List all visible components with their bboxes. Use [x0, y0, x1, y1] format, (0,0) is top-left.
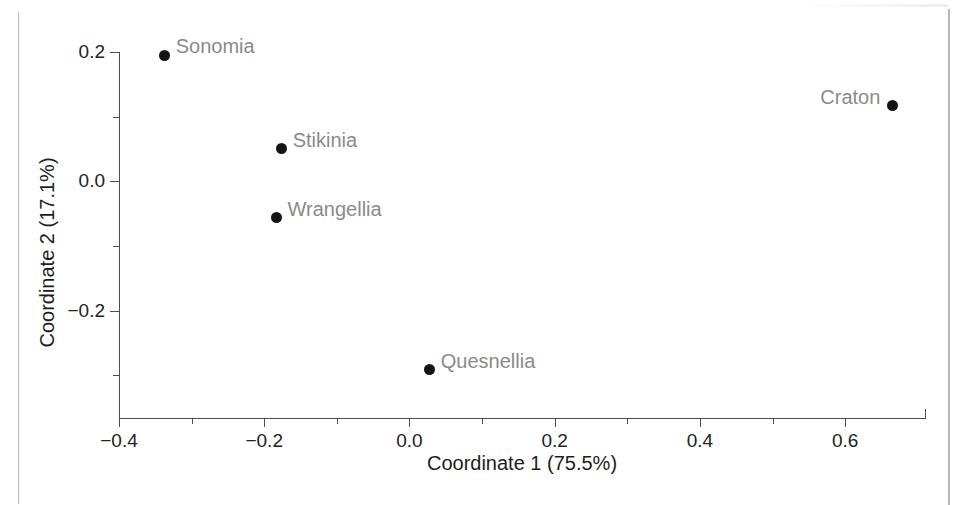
data-point-label: Sonomia [176, 35, 255, 58]
data-point-marker [276, 143, 287, 154]
x-tick-mark [845, 418, 846, 427]
data-point-label: Craton [820, 85, 880, 108]
x-tick-mark [337, 418, 338, 424]
y-tick-label: 0.2 [79, 41, 105, 63]
page-edge-rule-right [948, 9, 950, 505]
data-point-label: Stikinia [293, 128, 357, 151]
data-point-label: Quesnellia [441, 349, 536, 372]
page-edge-rule-left [18, 12, 19, 504]
y-tick-mark [110, 311, 119, 312]
x-tick-label: 0.2 [541, 430, 567, 452]
plot-area: 0.20.0−0.2 −0.4−0.20.00.20.40.6 SonomiaS… [119, 52, 925, 418]
y-axis-spine [119, 52, 120, 419]
x-tick-label: 0.6 [832, 430, 858, 452]
x-tick-label: −0.2 [245, 430, 283, 452]
x-tick-mark [700, 418, 701, 427]
y-tick-mark [110, 52, 119, 53]
data-point-marker [159, 50, 170, 61]
x-tick-mark [555, 418, 556, 427]
y-tick-label: −0.2 [67, 300, 105, 322]
x-tick-mark [627, 418, 628, 424]
data-point-marker [887, 100, 898, 111]
y-tick-label: 0.0 [79, 170, 105, 192]
x-tick-label: 0.4 [687, 430, 713, 452]
x-tick-mark [264, 418, 265, 427]
scatter-plot-figure: 0.20.0−0.2 −0.4−0.20.00.20.40.6 SonomiaS… [0, 0, 965, 505]
data-point-marker [424, 364, 435, 375]
x-tick-mark [773, 418, 774, 424]
y-axis-title: Coordinate 2 (17.1%) [30, 0, 64, 505]
x-axis-title: Coordinate 1 (75.5%) [119, 452, 925, 475]
x-tick-mark [409, 418, 410, 427]
x-tick-label: −0.4 [100, 430, 138, 452]
x-tick-label: 0.0 [396, 430, 422, 452]
y-tick-mark [110, 181, 119, 182]
x-tick-mark [192, 418, 193, 424]
x-axis-end-tick [925, 409, 926, 419]
y-tick-mark [113, 375, 119, 376]
scan-artifact-smudge [800, 4, 948, 7]
y-tick-mark [113, 117, 119, 118]
data-point-marker [271, 212, 282, 223]
x-axis-spine [119, 418, 926, 419]
data-point-label: Wrangellia [288, 197, 382, 220]
x-tick-mark [119, 418, 120, 427]
x-tick-mark [482, 418, 483, 424]
y-tick-mark [113, 246, 119, 247]
